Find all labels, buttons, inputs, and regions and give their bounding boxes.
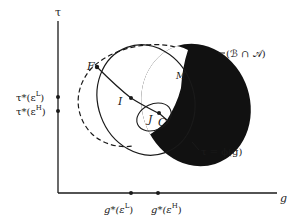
g-eps-H-dot [156,191,160,195]
point-J-label: J [146,113,153,126]
point-F-dot [95,65,99,69]
point-I-dot [129,96,133,100]
point-M-label: M [175,71,186,81]
point-C-label: C [158,116,167,129]
tau-eps-H-label: τ*(εH) [16,104,46,117]
tau-eps-H-dot [56,109,60,113]
tau-eps-L-label: τ*(εL) [16,90,44,103]
tau-axis-label: τ [55,6,61,19]
g-eps-L-label: g*(εL) [104,202,133,215]
tau-eps-L-dot [56,95,60,99]
curve-label: τ = ϕ(g) [201,146,242,157]
g-eps-H-label: g*(εH) [151,202,182,215]
g-eps-L-dot [129,191,133,195]
intersection-label: (ℬ ∩ 𝒜) [226,48,266,59]
point-F-label: F [86,60,95,73]
diagram: τ g F I J C M (ℬ ∩ 𝒜) τ = ϕ(g) τ*(εL) τ*… [0,0,302,221]
g-axis-label: g [280,192,287,205]
point-J-dot [157,111,161,115]
point-I-label: I [117,95,123,108]
